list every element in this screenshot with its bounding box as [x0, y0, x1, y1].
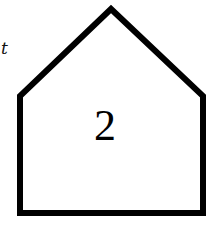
side-label: t: [1, 38, 8, 58]
center-number-label: 2: [94, 104, 116, 148]
